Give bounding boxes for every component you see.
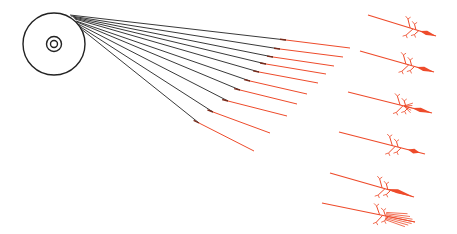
ray-black-segment xyxy=(78,24,228,101)
fletch-branch xyxy=(376,215,382,222)
fletch-twig xyxy=(401,52,403,55)
fletch-twig xyxy=(411,35,414,36)
ray-transition xyxy=(234,89,240,90)
fletch-twig xyxy=(377,176,379,179)
fletch-branch xyxy=(410,66,414,70)
arrow-head xyxy=(420,31,436,36)
ray-black-segment xyxy=(80,28,199,123)
ray-transition xyxy=(274,48,280,49)
fletch-branch xyxy=(397,96,400,105)
fletch-branch xyxy=(386,190,390,194)
arrow-figure-icon xyxy=(360,51,434,74)
brush-bristle xyxy=(386,212,407,213)
arrow-figure-icon xyxy=(322,203,415,227)
ray-black-segment xyxy=(79,26,213,112)
arrow-figure-icon xyxy=(348,92,432,115)
fletch-twig xyxy=(397,152,398,155)
ray-transition xyxy=(253,71,259,72)
arrow-bead xyxy=(408,149,420,154)
fletch-twig xyxy=(407,70,410,71)
fletch-twig xyxy=(394,139,396,142)
fan-rays xyxy=(70,15,350,151)
ray-transition xyxy=(260,63,266,64)
fletch-twig xyxy=(401,111,404,112)
fletch-twig xyxy=(386,182,389,184)
fletch-twig xyxy=(406,16,408,19)
arrow-figure-icon xyxy=(368,15,436,38)
fletch-twig xyxy=(384,181,386,184)
fletch-twig xyxy=(410,70,411,73)
fletch-twig xyxy=(397,94,400,96)
fletch-twig xyxy=(393,112,396,113)
fletch-twig xyxy=(383,194,386,195)
fletch-twig xyxy=(381,208,384,211)
fletch-twig xyxy=(396,140,399,142)
fletch-branch xyxy=(397,148,401,152)
fletch-twig xyxy=(377,204,379,206)
fletch-twig xyxy=(412,21,414,24)
fletch-twig xyxy=(374,203,377,206)
ray-transition xyxy=(280,39,286,40)
diagram-canvas xyxy=(0,0,457,234)
fletch-branch xyxy=(408,19,410,28)
fletch-twig xyxy=(386,194,387,197)
fletch-twig xyxy=(403,53,406,55)
disc-inner-ring xyxy=(47,37,62,52)
ray-transition xyxy=(244,80,250,81)
fletch-twig xyxy=(385,221,386,224)
fletch-branch xyxy=(389,146,396,153)
fletch-twig xyxy=(415,22,418,24)
ray-red-segment xyxy=(259,72,318,83)
fan-ray xyxy=(78,24,287,116)
ray-red-segment xyxy=(273,57,334,66)
ray-transition xyxy=(222,100,228,101)
fletch-twig xyxy=(378,195,379,198)
disc-hub xyxy=(51,41,58,48)
diagram-svg xyxy=(0,0,457,234)
fletch-twig xyxy=(395,93,397,96)
fletch-branch xyxy=(406,29,413,35)
fletch-branch xyxy=(390,137,393,146)
ray-red-segment xyxy=(280,49,343,57)
fletch-twig xyxy=(376,222,377,225)
fletch-twig xyxy=(390,135,393,137)
ray-transition xyxy=(207,110,213,112)
fletch-branch xyxy=(414,31,418,35)
fletch-twig xyxy=(414,35,415,38)
fletch-twig xyxy=(380,177,383,179)
ray-red-segment xyxy=(213,112,270,133)
fletch-twig xyxy=(406,35,407,38)
fan-ray xyxy=(74,18,326,74)
fletch-twig xyxy=(384,208,386,210)
fletch-twig xyxy=(375,195,378,196)
fletch-twig xyxy=(402,71,403,74)
ray-red-segment xyxy=(240,90,297,104)
fletch-twig xyxy=(408,17,411,19)
fletch-branch xyxy=(396,106,403,113)
fan-ray xyxy=(75,19,318,83)
fletch-twig xyxy=(399,71,402,72)
fletch-branch xyxy=(377,206,380,215)
fletch-branch xyxy=(402,65,409,71)
disc-outer-ring xyxy=(23,13,85,75)
fletch-twig xyxy=(393,152,396,153)
ray-red-segment xyxy=(228,101,287,116)
fletch-twig xyxy=(405,111,406,114)
ray-red-segment xyxy=(250,81,307,94)
ray-red-segment xyxy=(199,123,254,151)
arrow-figure-icon xyxy=(330,173,414,198)
fan-ray xyxy=(70,15,350,48)
fletch-twig xyxy=(410,58,413,60)
arrow-head xyxy=(412,108,432,113)
ray-transition xyxy=(267,56,273,57)
fan-ray xyxy=(80,28,254,151)
ray-red-segment xyxy=(266,64,326,74)
fletch-twig xyxy=(403,35,406,36)
arrow-blade xyxy=(386,189,414,197)
arrow-figure-icon xyxy=(339,132,425,156)
ray-red-segment xyxy=(286,40,350,48)
fletch-branch xyxy=(378,189,385,195)
fletch-branch xyxy=(403,55,405,64)
source-disc-icon xyxy=(23,13,85,75)
arrow-head xyxy=(416,67,434,72)
